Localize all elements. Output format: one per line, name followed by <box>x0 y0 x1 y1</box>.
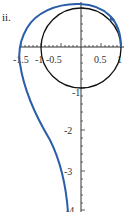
y-tick-label: -3 <box>64 166 72 177</box>
y-tick-label: -2 <box>64 125 72 136</box>
plot-area: -1.5 -1 -0.5 0.5 1 -1 -2 -3 -4 <box>0 0 126 212</box>
x-tick-label: -1.5 <box>13 54 29 65</box>
x-tick-label: 0.5 <box>94 54 107 65</box>
y-tick-label: -1 <box>72 87 80 98</box>
parametric-curve <box>19 4 121 212</box>
x-tick-label: -0.5 <box>46 54 62 65</box>
x-axis-ticks <box>21 43 121 47</box>
y-axis-ticks <box>81 8 85 210</box>
